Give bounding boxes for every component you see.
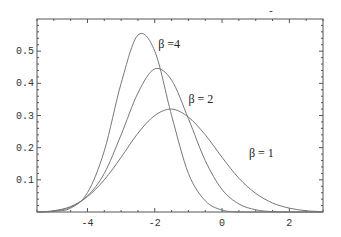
y-tick-label: 0.4 — [16, 78, 34, 89]
density-chart: - -4-2020.10.20.30.40.5 β =4β = 2β = 1 — [0, 0, 341, 237]
curve-2 — [37, 68, 323, 212]
y-tick-label: 0.1 — [16, 175, 34, 186]
curves — [37, 33, 323, 212]
x-tick-label: -4 — [81, 218, 93, 229]
x-tick-label: -2 — [149, 218, 161, 229]
x-tick-label: 2 — [286, 218, 292, 229]
curve-1 — [37, 109, 323, 212]
curve-label: β = 1 — [249, 146, 274, 160]
curve-4 — [37, 33, 323, 212]
x-tick-label: 0 — [219, 218, 225, 229]
curve-label: β = 2 — [188, 92, 213, 106]
y-tick-label: 0.3 — [16, 111, 34, 122]
curve-labels: β =4β = 2β = 1 — [158, 37, 274, 160]
y-tick-label: 0.2 — [16, 143, 34, 154]
curve-label: β =4 — [158, 37, 180, 51]
y-tick-label: 0.5 — [16, 46, 34, 57]
top-mark: - — [268, 6, 274, 17]
